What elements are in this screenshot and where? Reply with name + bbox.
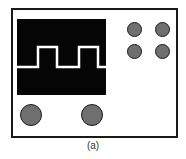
oscilloscope-screen bbox=[17, 19, 106, 95]
large-knob-left bbox=[20, 104, 42, 126]
small-knob-top-left bbox=[127, 22, 142, 37]
small-knob-bottom-left bbox=[127, 44, 142, 59]
small-knob-top-right bbox=[155, 22, 170, 37]
figure-caption: (a) bbox=[0, 140, 186, 151]
large-knob-right bbox=[81, 104, 103, 126]
small-knob-bottom-right bbox=[155, 44, 170, 59]
square-wave-trace bbox=[17, 19, 106, 95]
